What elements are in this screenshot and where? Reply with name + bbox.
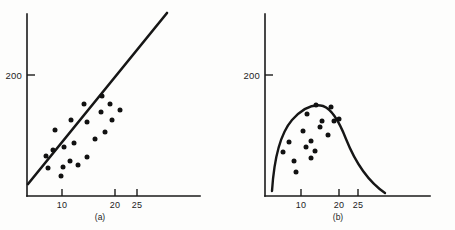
data-point [309, 156, 314, 161]
data-point [44, 154, 49, 159]
data-point [281, 150, 286, 155]
data-point [118, 108, 123, 113]
data-point [85, 120, 90, 125]
panel-a-scatter-points [44, 94, 123, 179]
data-point [110, 118, 115, 123]
panel-b-x-tick-label-10: 10 [296, 200, 306, 210]
data-point [72, 141, 77, 146]
data-point [82, 102, 87, 107]
data-point [62, 145, 67, 150]
data-point [320, 119, 325, 124]
data-point [69, 118, 74, 123]
panel-a: 200 10 20 25 [6, 13, 200, 222]
data-point [99, 110, 104, 115]
panel-b-y-tick-label-200: 200 [244, 70, 260, 81]
panel-a-caption: (a) [95, 212, 106, 222]
panel-b-x-tick-label-25: 25 [353, 200, 363, 210]
panel-b-x-tick-label-20: 20 [334, 200, 344, 210]
data-point [326, 133, 331, 138]
two-panel-scatter-figure: 200 10 20 25 [0, 0, 455, 230]
panel-a-x-tick-label-25: 25 [132, 200, 142, 210]
data-point [309, 139, 314, 144]
data-point [294, 170, 299, 175]
data-point [313, 149, 318, 154]
data-point [301, 129, 306, 134]
data-point [108, 102, 113, 107]
data-point [287, 140, 292, 145]
data-point [314, 103, 319, 108]
data-point [46, 166, 51, 171]
data-point [337, 117, 342, 122]
data-point [318, 125, 323, 130]
panel-a-x-tick-label-20: 20 [110, 200, 120, 210]
data-point [304, 145, 309, 150]
panel-b-caption: (b) [333, 212, 344, 222]
data-point [76, 163, 81, 168]
panel-a-x-tick-label-10: 10 [57, 200, 67, 210]
data-point [292, 159, 297, 164]
data-point [85, 155, 90, 160]
panel-b: 200 10 20 25 (b [244, 14, 430, 222]
data-point [100, 94, 105, 99]
data-point [329, 105, 334, 110]
data-point [332, 119, 337, 124]
data-point [305, 112, 310, 117]
panel-a-regression-line [28, 13, 167, 184]
data-point [93, 137, 98, 142]
panel-b-quadratic-curve [272, 105, 385, 193]
data-point [53, 128, 58, 133]
data-point [51, 148, 56, 153]
data-point [61, 165, 66, 170]
data-point [103, 130, 108, 135]
data-point [68, 159, 73, 164]
data-point [59, 174, 64, 179]
panel-a-y-tick-label-200: 200 [6, 70, 22, 81]
